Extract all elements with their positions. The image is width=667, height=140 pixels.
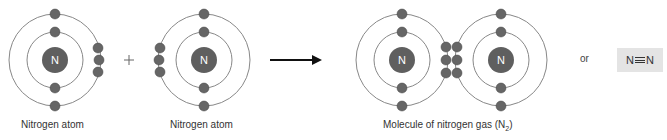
nucleus-symbol: N — [51, 54, 59, 66]
nitrogen-molecule: N N — [356, 9, 547, 111]
reaction-arrow-icon — [270, 55, 322, 65]
nucleus-symbol-left: N — [398, 54, 406, 66]
triple-bond-icon — [635, 57, 645, 63]
atom-1-label: Nitrogen atom — [21, 119, 84, 130]
nitrogen-atom-1: N — [9, 9, 104, 111]
or-label: or — [580, 53, 589, 64]
structural-formula: N N — [617, 48, 663, 72]
molecule-label-prefix: Molecule of nitrogen gas (N — [383, 119, 505, 130]
atom-2-label: Nitrogen atom — [170, 119, 233, 130]
molecule-label-suffix: ) — [509, 119, 512, 130]
nucleus-symbol: N — [200, 54, 208, 66]
nitrogen-bonding-diagram: N N — [0, 0, 667, 140]
nucleus-symbol-right: N — [497, 54, 505, 66]
formula-left-atom: N — [626, 54, 634, 66]
nitrogen-atom-2: N — [154, 9, 250, 111]
molecule-label: Molecule of nitrogen gas (N2) — [383, 119, 513, 132]
formula-right-atom: N — [646, 54, 654, 66]
plus-sign — [124, 55, 134, 65]
